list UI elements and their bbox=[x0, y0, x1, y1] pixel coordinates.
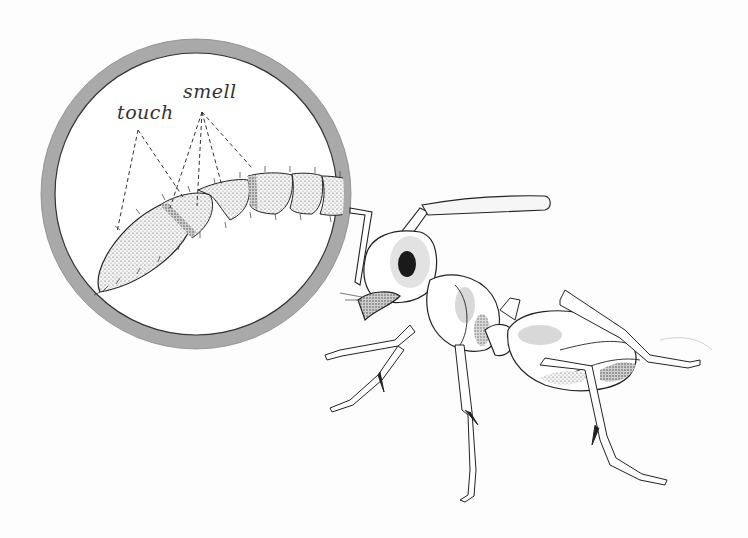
touch-label: touch bbox=[117, 101, 174, 123]
smell-label: smell bbox=[183, 80, 237, 102]
ant-eye bbox=[398, 251, 416, 277]
illustration-canvas: touch smell bbox=[0, 0, 748, 538]
ant-illustration bbox=[0, 0, 748, 538]
